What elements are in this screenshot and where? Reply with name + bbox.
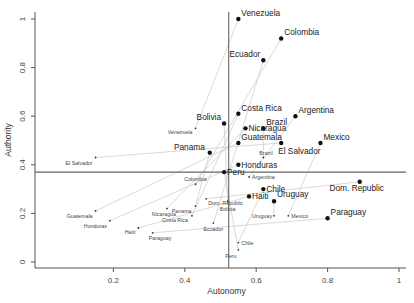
large-point-label: Uruguay	[277, 189, 309, 199]
large-point-label: El Salvador	[278, 146, 321, 156]
small-point-label: Venezuela	[168, 129, 193, 135]
small-point-label: Argentina	[252, 174, 275, 180]
small-data-point	[195, 127, 197, 129]
small-data-point	[109, 220, 111, 222]
large-data-point	[222, 121, 226, 125]
large-data-point	[222, 170, 226, 174]
large-point-label: Guatemala	[241, 132, 282, 142]
small-point-label: Haiti	[125, 229, 136, 235]
y-tick-label: 0.6	[18, 110, 27, 122]
small-point-label: Dom. Republic	[208, 200, 243, 206]
x-tick-label: 0.8	[322, 276, 334, 285]
small-point-label: Uruguay	[252, 213, 272, 219]
large-data-point	[208, 150, 212, 154]
large-data-point	[318, 141, 322, 145]
y-tick-label: 0.2	[18, 207, 27, 219]
large-data-point	[236, 141, 240, 145]
large-point-label: Dom. Republic	[330, 183, 384, 193]
small-point-label: Paraguay	[149, 235, 172, 241]
large-data-point	[279, 141, 283, 145]
y-tick-label: 0.8	[18, 61, 27, 73]
small-point-label: Bolivia	[220, 206, 236, 212]
y-tick-label: 0.4	[18, 159, 27, 171]
large-point-label: Haiti	[252, 191, 269, 201]
small-data-point	[166, 208, 168, 210]
small-data-point	[205, 198, 207, 200]
large-point-label: Bolivia	[197, 112, 222, 122]
large-data-point	[236, 17, 240, 21]
small-data-point	[237, 249, 239, 251]
small-data-point	[195, 205, 197, 207]
y-tick-label: 0	[18, 259, 27, 264]
large-point-label: Venezuela	[241, 8, 280, 18]
small-data-point	[262, 157, 264, 159]
large-point-label: Mexico	[323, 132, 350, 142]
small-point-label: Panama	[172, 208, 192, 214]
small-point-label: Peru	[225, 253, 236, 259]
y-tick-label: 1	[18, 16, 27, 21]
y-axis-title: Authority	[3, 122, 13, 156]
large-point-label: Ecuador	[229, 49, 260, 59]
small-data-point	[191, 215, 193, 217]
small-point-label: Colombia	[184, 176, 206, 182]
large-data-point	[293, 114, 297, 118]
small-data-point	[273, 215, 275, 217]
small-point-label: Mexico	[291, 213, 308, 219]
large-point-label: Honduras	[241, 160, 277, 170]
large-point-label: Costa Rica	[241, 103, 282, 113]
large-data-point	[272, 199, 276, 203]
small-data-point	[95, 210, 97, 212]
x-axis-title: Autonomy	[207, 286, 246, 296]
large-data-point	[279, 36, 283, 40]
small-point-label: Brazil	[259, 150, 272, 156]
large-data-point	[236, 112, 240, 116]
small-data-point	[137, 227, 139, 229]
x-tick-label: 0.2	[108, 276, 120, 285]
small-data-point	[248, 176, 250, 178]
large-data-point	[261, 58, 265, 62]
scatter-chart: 00.20.40.60.810.20.40.60.81AutonomyAutho…	[0, 0, 414, 303]
small-data-point	[95, 157, 97, 159]
large-point-label: Paraguay	[331, 207, 367, 217]
x-tick-label: 1	[397, 276, 402, 285]
small-point-label: Guatemala	[67, 213, 93, 219]
large-point-label: Panama	[174, 142, 205, 152]
large-data-point	[247, 194, 251, 198]
small-data-point	[227, 200, 229, 202]
small-data-point	[287, 215, 289, 217]
small-point-label: Honduras	[84, 223, 107, 229]
large-data-point	[243, 126, 247, 130]
small-data-point	[152, 232, 154, 234]
small-data-point	[195, 183, 197, 185]
x-tick-label: 0.4	[179, 276, 191, 285]
small-point-label: Chile	[241, 240, 253, 246]
chart-svg: 00.20.40.60.810.20.40.60.81AutonomyAutho…	[0, 0, 414, 303]
small-point-label: El Salvador	[65, 160, 92, 166]
x-tick-label: 0.6	[251, 276, 263, 285]
small-data-point	[237, 242, 239, 244]
small-point-label: Ecuador	[203, 226, 223, 232]
large-point-label: Peru	[227, 167, 245, 177]
small-point-label: Costa Rica	[162, 217, 188, 223]
large-point-label: Colombia	[284, 27, 319, 37]
large-point-label: Argentina	[298, 105, 334, 115]
small-data-point	[212, 222, 214, 224]
large-data-point	[325, 216, 329, 220]
